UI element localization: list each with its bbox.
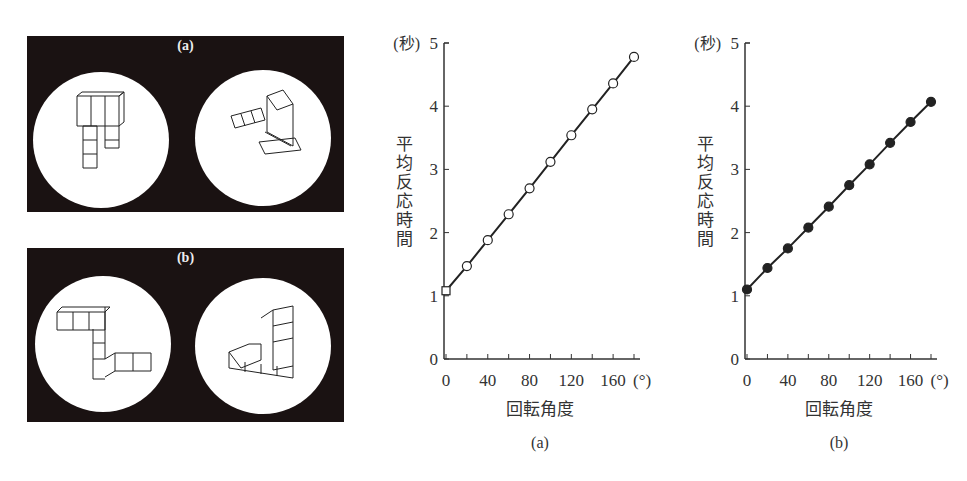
y-tick-label: 5 (731, 34, 740, 53)
data-point (630, 52, 639, 61)
chart-caption: (b) (830, 434, 849, 452)
data-point (546, 157, 555, 166)
chart-a-plot: 01234504080120160(°)(秒)平均反応時間回転角度(a) (360, 0, 660, 481)
data-point (804, 223, 813, 232)
data-point (462, 262, 471, 271)
x-tick-label: 80 (820, 371, 837, 390)
y-unit-label: (秒) (694, 35, 721, 53)
y-tick-label: 2 (731, 224, 740, 243)
y-axis-label: 間 (396, 230, 413, 249)
data-line (446, 57, 634, 291)
y-unit-label: (秒) (393, 35, 420, 53)
x-axis-label: 回転角度 (506, 400, 574, 419)
y-tick-label: 1 (430, 287, 439, 306)
data-point (865, 160, 874, 169)
block-figures-a (27, 36, 344, 212)
data-point (763, 263, 772, 272)
y-axis-label: 間 (697, 230, 714, 249)
x-tick-label: 0 (442, 371, 451, 390)
y-axis-label: 均 (697, 154, 714, 173)
data-point (483, 236, 492, 245)
data-point (442, 287, 450, 295)
y-axis-label: 反 (396, 173, 413, 192)
data-line (747, 102, 931, 290)
stimulus-panel-a: (a) (27, 36, 344, 212)
x-tick-label: 80 (521, 371, 538, 390)
y-tick-label: 3 (731, 160, 740, 179)
data-point (567, 131, 576, 140)
x-tick-label: 160 (600, 371, 626, 390)
data-point (824, 202, 833, 211)
data-point (845, 181, 854, 190)
y-tick-label: 2 (430, 224, 439, 243)
y-axis-label: 時 (697, 211, 714, 230)
chart-caption: (a) (531, 434, 549, 452)
x-tick-label: 120 (857, 371, 883, 390)
y-axis-label: 応 (697, 192, 714, 211)
y-tick-label: 5 (430, 34, 439, 53)
x-tick-label: 40 (479, 371, 496, 390)
y-axis-label: 平 (697, 135, 714, 154)
y-axis-label: 均 (396, 154, 413, 173)
data-point (906, 118, 915, 127)
chart-b-plot: 01234504080120160(°)(秒)平均反応時間回転角度(b) (680, 0, 967, 481)
chart-b: 01234504080120160(°)(秒)平均反応時間回転角度(b) (680, 0, 967, 481)
y-axis-label: 平 (396, 135, 413, 154)
y-tick-label: 0 (731, 350, 740, 369)
x-unit-label: (°) (633, 371, 651, 390)
data-point (504, 210, 513, 219)
data-point (609, 79, 618, 88)
data-point (886, 138, 895, 147)
stimulus-panel-b: (b) (27, 248, 344, 422)
y-tick-label: 4 (430, 97, 439, 116)
x-tick-label: 40 (779, 371, 796, 390)
data-point (525, 184, 534, 193)
x-tick-label: 120 (559, 371, 585, 390)
data-point (743, 285, 752, 294)
x-unit-label: (°) (931, 371, 949, 390)
y-axis-label: 反 (697, 173, 714, 192)
stimulus-label-a: (a) (27, 38, 344, 54)
y-tick-label: 0 (430, 350, 439, 369)
y-tick-label: 3 (430, 160, 439, 179)
data-point (927, 97, 936, 106)
y-axis-label: 時 (396, 211, 413, 230)
y-tick-label: 4 (731, 97, 740, 116)
chart-a: 01234504080120160(°)(秒)平均反応時間回転角度(a) (360, 0, 660, 481)
x-tick-label: 160 (898, 371, 924, 390)
y-tick-label: 1 (731, 287, 740, 306)
block-figures-b (27, 248, 344, 422)
x-axis-label: 回転角度 (805, 400, 873, 419)
data-point (588, 105, 597, 114)
y-axis-label: 応 (396, 192, 413, 211)
stimulus-label-b: (b) (27, 250, 344, 266)
data-point (783, 244, 792, 253)
x-tick-label: 0 (743, 371, 752, 390)
